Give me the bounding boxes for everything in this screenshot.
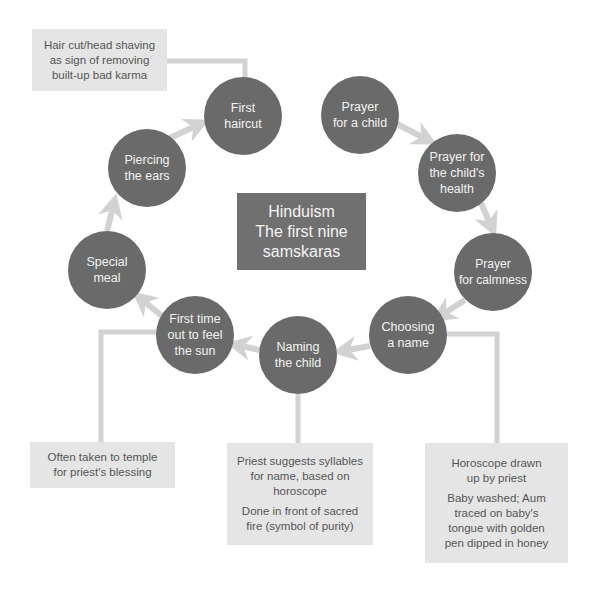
- note-naming-text-1: Priest suggests syllables for name, base…: [233, 454, 367, 499]
- note-haircut: Hair cut/head shaving as sign of removin…: [32, 29, 167, 91]
- arrow-choosing-to-naming: [342, 346, 370, 351]
- note-naming-text-2: Done in front of sacred fire (symbol of …: [233, 504, 367, 534]
- note-first-time-out: Often taken to temple for priest's bless…: [30, 442, 175, 488]
- note-first-time-out-text: Often taken to temple for priest's bless…: [36, 450, 169, 480]
- stage-first-time-out: First time out to feel the sun: [156, 296, 234, 374]
- note-choosing-text-1: Horoscope drawn up by priest: [431, 456, 562, 486]
- connector-choosing-note: [447, 334, 497, 443]
- title-line-3: samskaras: [237, 242, 366, 262]
- diagram-title-box: Hinduism The first nine samskaras: [237, 193, 366, 270]
- arrow-ears-to-haircut: [170, 124, 200, 138]
- note-haircut-text: Hair cut/head shaving as sign of removin…: [38, 38, 161, 83]
- stage-piercing-the-ears: Piercing the ears: [108, 129, 186, 207]
- stage-prayer-for-a-child: Prayer for a child: [321, 76, 399, 154]
- arrow-health-to-calmness: [481, 203, 492, 228]
- arrow-child-to-health: [397, 124, 428, 140]
- stage-special-meal: Special meal: [68, 231, 146, 309]
- connector-first-time-out-note: [101, 332, 157, 442]
- note-naming: Priest suggests syllables for name, base…: [227, 443, 373, 545]
- stage-choosing-a-name: Choosing a name: [369, 296, 447, 374]
- arrow-firsttime-to-meal: [140, 298, 162, 316]
- stage-naming-the-child: Naming the child: [259, 316, 337, 394]
- title-line-1: Hinduism: [237, 202, 366, 222]
- arrow-calmness-to-choosing: [440, 300, 465, 316]
- stage-prayer-for-childs-health: Prayer for the child's health: [418, 134, 496, 212]
- note-choosing: Horoscope drawn up by priest Baby washed…: [425, 443, 568, 563]
- title-line-2: The first nine: [237, 222, 366, 242]
- stage-first-haircut: First haircut: [204, 77, 282, 155]
- note-choosing-text-2: Baby washed; Aum traced on baby's tongue…: [431, 491, 562, 551]
- stage-prayer-for-calmness: Prayer for calmness: [454, 233, 532, 311]
- arrow-meal-to-ears: [107, 203, 114, 231]
- arrow-naming-to-firsttime: [236, 345, 260, 350]
- connector-haircut-note: [167, 61, 245, 78]
